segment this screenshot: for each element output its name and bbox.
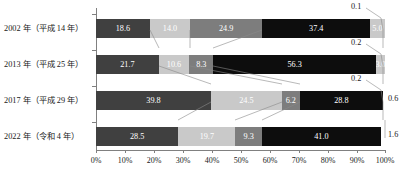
x-axis-label-30: 30%	[176, 156, 191, 165]
x-tick-10	[125, 150, 126, 153]
x-axis-label-40: 40%	[205, 156, 220, 165]
category-label-2002: 2002 年（平成 14 年）	[4, 21, 94, 33]
bar-segment: 24.9	[190, 19, 262, 38]
y-tick-3	[92, 122, 96, 123]
x-tick-0	[96, 150, 97, 153]
bar-segment: 14.0	[150, 19, 190, 38]
x-axis-label-20: 20%	[147, 156, 162, 165]
bar-segment: 24.5	[211, 91, 282, 110]
category-label-2022: 2022 年（令和 4 年）	[4, 129, 94, 141]
callout-label-2017: 0.2	[351, 74, 361, 83]
callout-label-2002: 0.1	[351, 2, 361, 11]
x-tick-80	[328, 150, 329, 153]
x-tick-90	[357, 150, 358, 153]
callout-label-2013: 0.2	[351, 38, 361, 47]
bar-segment: 21.7	[96, 55, 159, 74]
y-tick-1	[92, 50, 96, 51]
x-axis-label-60: 60%	[263, 156, 278, 165]
x-tick-60	[270, 150, 271, 153]
bar-segment: 8.3	[189, 55, 213, 74]
category-label-2013: 2013 年（平成 25 年）	[4, 57, 94, 69]
bar-segment: 5.0	[370, 19, 384, 38]
y-tick-2	[92, 86, 96, 87]
value-label-2022-outside: 1.6	[388, 130, 398, 139]
x-tick-40	[212, 150, 213, 153]
category-label-2017: 2017 年（平成 29 年）	[4, 93, 94, 105]
x-tick-20	[154, 150, 155, 153]
plot-area: 18.6 14.0 24.9 37.4 5.0 21.7 10.6 8.3 56…	[96, 8, 385, 150]
x-axis-label-0: 0%	[91, 156, 102, 165]
y-tick-0	[92, 14, 96, 15]
x-tick-50	[241, 150, 242, 153]
value-label-2017-outside: 0.6	[388, 94, 398, 103]
bar-segment: 3.0	[376, 55, 385, 74]
bar-segment: 6.2	[282, 91, 300, 110]
table-row: 18.6 14.0 24.9 37.4 5.0	[96, 19, 385, 38]
table-row: 39.8 24.5 6.2 28.8	[96, 91, 385, 110]
x-tick-30	[183, 150, 184, 153]
x-axis-label-70: 70%	[292, 156, 307, 165]
bar-segment: 41.0	[262, 127, 380, 146]
x-axis-label-50: 50%	[234, 156, 249, 165]
bar-segment: 18.6	[96, 19, 150, 38]
x-axis-label-100: 100%	[376, 156, 395, 165]
x-axis-label-90: 90%	[350, 156, 365, 165]
table-row: 21.7 10.6 8.3 56.3 3.0	[96, 55, 385, 74]
bar-segment: 10.6	[159, 55, 190, 74]
bar-segment: 37.4	[262, 19, 370, 38]
bar-segment: 9.3	[235, 127, 262, 146]
bar-segment: 39.8	[96, 91, 211, 110]
bar-segment: 19.7	[178, 127, 235, 146]
stacked-bar-chart: 2002 年（平成 14 年） 2013 年（平成 25 年） 2017 年（平…	[0, 0, 409, 178]
bar-segment: 28.5	[96, 127, 178, 146]
x-tick-70	[299, 150, 300, 153]
table-row: 28.5 19.7 9.3 41.0	[96, 127, 385, 146]
x-axis-label-10: 10%	[118, 156, 133, 165]
bar-segment: 28.8	[300, 91, 383, 110]
x-tick-100	[385, 150, 386, 153]
x-axis-label-80: 80%	[321, 156, 336, 165]
bar-segment: 56.3	[213, 55, 376, 74]
